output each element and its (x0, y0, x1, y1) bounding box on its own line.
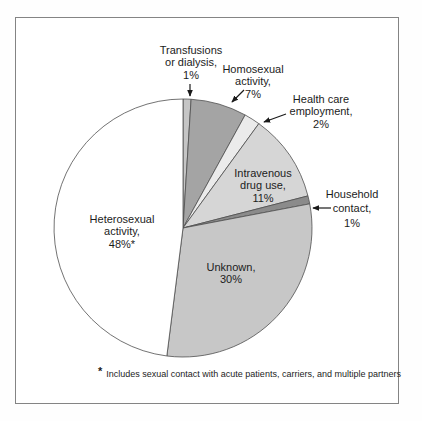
label-line: employment, (290, 105, 353, 117)
label-line: 1% (160, 69, 223, 81)
label-line: activity, (90, 225, 155, 237)
label-line: Transfusions (160, 44, 223, 56)
label-homosexual-activity: Homosexual activity, 7% (222, 63, 283, 100)
label-unknown: Unknown, 30% (207, 261, 256, 286)
label-line: 1% (326, 216, 379, 230)
label-line: contact, (326, 201, 379, 215)
label-line: activity, (222, 75, 283, 87)
label-line: Household (326, 187, 379, 201)
label-line: 30% (207, 273, 256, 285)
label-line: Heterosexual (90, 213, 155, 225)
label-line: Homosexual (222, 63, 283, 75)
footnote: *Includes sexual contact with acute pati… (98, 365, 401, 379)
label-line: 11% (234, 192, 291, 204)
figure: Transfusions or dialysis, 1% Homosexual … (0, 0, 422, 421)
label-transfusions-or-dialysis: Transfusions or dialysis, 1% (160, 44, 223, 81)
label-health-care-employment: Health care employment, 2% (290, 93, 353, 130)
label-line: 48%* (90, 238, 155, 250)
footnote-text: Includes sexual contact with acute patie… (106, 369, 401, 379)
label-line: Health care (290, 93, 353, 105)
label-line: 2% (290, 118, 353, 130)
label-line: 7% (222, 88, 283, 100)
callout-arrow-health-care-employment (264, 114, 286, 122)
label-line: or dialysis, (160, 56, 223, 68)
label-line: Unknown, (207, 261, 256, 273)
label-line: Intravenous (234, 167, 291, 179)
label-household-contact: Household contact, 1% (326, 187, 379, 230)
label-heterosexual-activity: Heterosexual activity, 48%* (90, 213, 155, 250)
label-line: drug use, (234, 179, 291, 191)
label-intravenous-drug-use: Intravenous drug use, 11% (234, 167, 291, 204)
footnote-asterisk: * (98, 365, 102, 377)
